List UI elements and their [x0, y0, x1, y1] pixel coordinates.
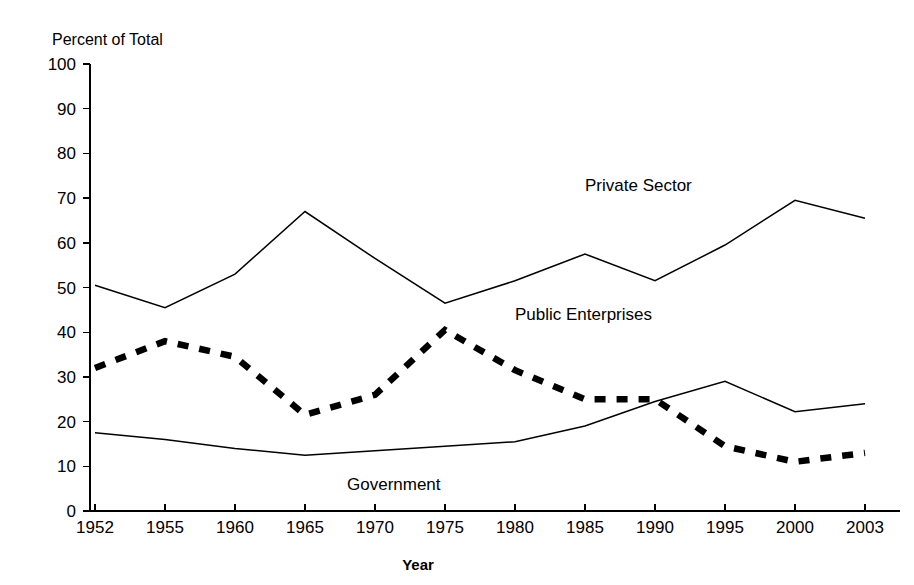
y-tick-label: 100	[48, 55, 76, 74]
y-tick-label: 10	[57, 457, 76, 476]
line-chart: Percent of Total 0102030405060708090100 …	[0, 0, 914, 585]
series-line-government	[95, 381, 865, 455]
y-tick-label: 60	[57, 234, 76, 253]
x-tick-label: 1970	[356, 518, 394, 537]
x-tick-label: 1955	[146, 518, 184, 537]
series-label-government: Government	[347, 475, 441, 494]
y-tick-label: 40	[57, 323, 76, 342]
x-tick-label: 1975	[426, 518, 464, 537]
x-tick-label: 1995	[706, 518, 744, 537]
x-tick-label: 1965	[286, 518, 324, 537]
series-paths	[95, 200, 865, 461]
x-axis-ticks: 1952195519601965197019751980198519901995…	[76, 504, 884, 537]
y-axis-caption: Percent of Total	[52, 31, 163, 48]
series-label-public-enterprises: Public Enterprises	[515, 305, 652, 324]
series-line-public-enterprises	[95, 330, 865, 462]
x-tick-label: 2000	[776, 518, 814, 537]
x-tick-label: 1985	[566, 518, 604, 537]
y-axis-caption-group: Percent of Total	[52, 31, 163, 48]
x-tick-label: 2003	[846, 518, 884, 537]
x-tick-label: 1980	[496, 518, 534, 537]
y-tick-label: 70	[57, 189, 76, 208]
x-tick-label: 1960	[216, 518, 254, 537]
y-tick-label: 80	[57, 144, 76, 163]
series-line-private-sector	[95, 200, 865, 307]
x-tick-label: 1952	[76, 518, 114, 537]
y-axis-ticks: 0102030405060708090100	[48, 55, 90, 521]
y-tick-label: 90	[57, 100, 76, 119]
y-tick-label: 0	[67, 502, 76, 521]
y-tick-label: 20	[57, 413, 76, 432]
series-label-private-sector: Private Sector	[585, 176, 692, 195]
series-annotations: Private SectorPublic EnterprisesGovernme…	[347, 176, 692, 494]
y-tick-label: 30	[57, 368, 76, 387]
chart-container: Percent of Total 0102030405060708090100 …	[0, 0, 914, 585]
y-tick-label: 50	[57, 279, 76, 298]
x-tick-label: 1990	[636, 518, 674, 537]
x-axis-title: Year	[402, 556, 434, 573]
